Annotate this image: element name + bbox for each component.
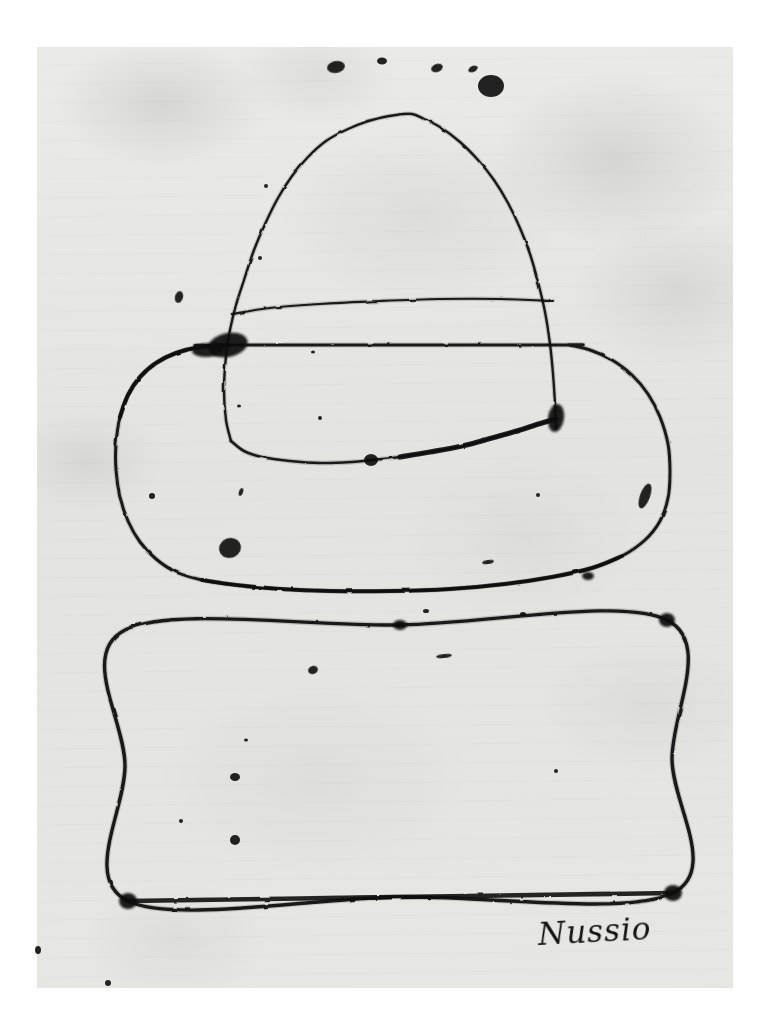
ink-spot [554, 769, 558, 773]
ink-strokes [105, 114, 694, 910]
ink-spot [520, 612, 526, 616]
ink-spot [423, 609, 429, 613]
stroke-rectangle [105, 611, 694, 910]
ink-spot [216, 535, 244, 561]
ink-spot [482, 559, 494, 565]
stroke-halo-crown [224, 114, 556, 441]
stroke-accent [400, 419, 556, 457]
ink-spot [244, 738, 248, 741]
ink-blot [582, 572, 594, 580]
ink-spot [237, 404, 241, 407]
ink-spot [264, 184, 268, 188]
ink-spot [311, 350, 315, 353]
ink-blot [119, 893, 137, 909]
ink-spot [636, 482, 654, 510]
stroke-halo-rectangle [105, 611, 694, 910]
ink-spot [174, 290, 185, 304]
ink-spot [307, 665, 319, 676]
ink-spot [536, 493, 540, 497]
ink-spot [326, 60, 346, 75]
ink-spot [35, 946, 41, 954]
ink-spot [238, 488, 244, 497]
artwork-canvas: Nussio [0, 0, 764, 1012]
ink-spot [436, 653, 452, 659]
ink-blot [393, 620, 407, 630]
stroke-crown [224, 114, 556, 441]
stroke-brim [115, 345, 670, 592]
ink-spot [149, 493, 155, 499]
artist-signature: Nussio [537, 910, 652, 952]
ink-spot [105, 980, 111, 986]
ink-spot [364, 454, 378, 466]
ink-spot [467, 64, 479, 74]
ink-spot [230, 835, 240, 845]
ink-spot [478, 75, 504, 97]
ink-drawing [0, 0, 764, 1012]
stroke-halo-brim [115, 345, 670, 592]
ink-blot [659, 613, 675, 627]
ink-spot [430, 62, 444, 74]
ink-spot [179, 819, 183, 823]
ink-blot [546, 403, 566, 433]
ink-blot [664, 885, 682, 901]
ink-spot [230, 773, 240, 781]
ink-spot [258, 256, 262, 260]
stroke-halo-crown_bottom [231, 419, 556, 463]
ink-spot [377, 58, 387, 65]
ink-spot [318, 416, 322, 420]
